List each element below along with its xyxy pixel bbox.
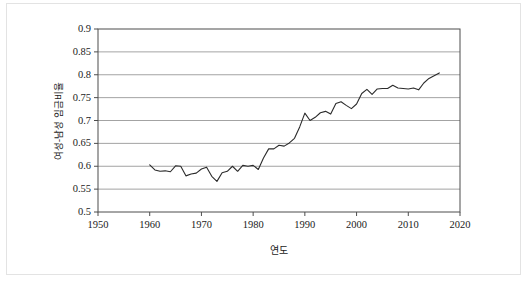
y-tick-label: 0.7 (78, 115, 91, 126)
y-tick-label: 0.8 (78, 70, 91, 81)
data-series-line (150, 73, 440, 181)
y-tick-label: 0.55 (73, 184, 91, 195)
x-tick-label: 1960 (139, 220, 160, 231)
x-tick-label: 2000 (346, 220, 367, 231)
x-axis-title: 연도 (270, 242, 288, 257)
y-tick-label: 0.5 (78, 207, 91, 218)
x-tick-label: 1970 (191, 220, 212, 231)
x-tick-label: 1980 (243, 220, 264, 231)
chart-figure: 0.50.550.60.650.70.750.80.850.9 19501960… (0, 0, 527, 284)
y-tick-label: 0.65 (73, 138, 91, 149)
gridlines-group (98, 52, 460, 189)
y-tick-label: 0.85 (73, 47, 91, 58)
y-tick-label: 0.9 (78, 24, 91, 35)
y-axis-title: 여성-남성 임금비율 (51, 81, 65, 159)
tickmarks-group (94, 29, 460, 216)
x-tick-label: 2010 (398, 220, 419, 231)
x-tick-label: 1990 (294, 220, 315, 231)
x-tick-label: 2020 (450, 220, 471, 231)
plot-area-wrapper: 0.50.550.60.650.70.750.80.850.9 19501960… (0, 0, 527, 284)
x-tick-label: 1950 (88, 220, 109, 231)
y-tick-label: 0.6 (78, 161, 91, 172)
y-tick-label: 0.75 (73, 92, 91, 103)
